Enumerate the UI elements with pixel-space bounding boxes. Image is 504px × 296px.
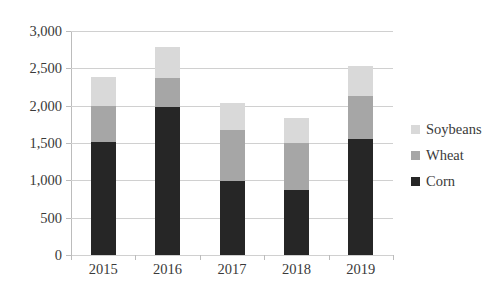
- bar-segment-corn-2018[interactable]: [284, 190, 309, 255]
- bar-segment-wheat-2017[interactable]: [220, 130, 245, 181]
- bar-segment-soybeans-2017[interactable]: [220, 103, 245, 130]
- x-tick-label-2018: 2018: [261, 262, 331, 277]
- bar-group-2015[interactable]: [91, 31, 116, 255]
- chart-legend: SoybeansWheatCorn: [411, 116, 503, 194]
- legend-label-wheat: Wheat: [426, 148, 464, 163]
- legend-swatch-corn: [411, 177, 420, 186]
- x-tick-mark-1: [135, 255, 136, 260]
- x-tick-mark-5: [393, 255, 394, 260]
- bar-segment-wheat-2019[interactable]: [348, 96, 373, 139]
- y-tick-label-500: 500: [0, 210, 62, 225]
- bar-segment-wheat-2018[interactable]: [284, 143, 309, 190]
- y-tick-label-2000: 2,000: [0, 98, 62, 113]
- x-tick-mark-4: [329, 255, 330, 260]
- bar-segment-soybeans-2018[interactable]: [284, 118, 309, 143]
- bar-group-2019[interactable]: [348, 31, 373, 255]
- bar-segment-soybeans-2016[interactable]: [155, 47, 180, 78]
- y-tick-label-1500: 1,500: [0, 136, 62, 151]
- x-tick-label-2015: 2015: [68, 262, 138, 277]
- bar-group-2016[interactable]: [155, 31, 180, 255]
- legend-item-soybeans[interactable]: Soybeans: [411, 116, 503, 142]
- bar-segment-corn-2017[interactable]: [220, 181, 245, 255]
- x-tick-mark-0: [71, 255, 72, 260]
- bar-segment-soybeans-2015[interactable]: [91, 77, 116, 105]
- y-tick-label-2500: 2,500: [0, 61, 62, 76]
- legend-label-corn: Corn: [426, 174, 455, 189]
- bar-segment-soybeans-2019[interactable]: [348, 66, 373, 96]
- bar-segment-corn-2016[interactable]: [155, 107, 180, 255]
- legend-item-corn[interactable]: Corn: [411, 168, 503, 194]
- y-tick-label-3000: 3,000: [0, 24, 62, 39]
- bar-group-2017[interactable]: [220, 31, 245, 255]
- x-tick-label-2019: 2019: [326, 262, 396, 277]
- bar-group-2018[interactable]: [284, 31, 309, 255]
- y-tick-mark-2500: [66, 68, 71, 69]
- gridline-0: [71, 255, 393, 256]
- y-tick-mark-500: [66, 218, 71, 219]
- bar-segment-corn-2015[interactable]: [91, 142, 116, 255]
- y-tick-label-1000: 1,000: [0, 173, 62, 188]
- legend-swatch-wheat: [411, 151, 420, 160]
- x-tick-label-2017: 2017: [197, 262, 267, 277]
- y-tick-label-0: 0: [0, 248, 62, 263]
- x-tick-mark-2: [200, 255, 201, 260]
- legend-item-wheat[interactable]: Wheat: [411, 142, 503, 168]
- x-tick-label-2016: 2016: [133, 262, 203, 277]
- y-tick-mark-1000: [66, 180, 71, 181]
- legend-label-soybeans: Soybeans: [426, 122, 482, 137]
- plot-area: [71, 31, 393, 255]
- legend-swatch-soybeans: [411, 125, 420, 134]
- y-tick-mark-1500: [66, 143, 71, 144]
- x-tick-mark-3: [264, 255, 265, 260]
- bar-segment-corn-2019[interactable]: [348, 139, 373, 255]
- y-tick-mark-2000: [66, 106, 71, 107]
- bar-segment-wheat-2015[interactable]: [91, 106, 116, 143]
- y-tick-mark-3000: [66, 31, 71, 32]
- bar-segment-wheat-2016[interactable]: [155, 78, 180, 107]
- stacked-bar-chart: 05001,0001,5002,0002,5003,000 2015201620…: [0, 0, 504, 296]
